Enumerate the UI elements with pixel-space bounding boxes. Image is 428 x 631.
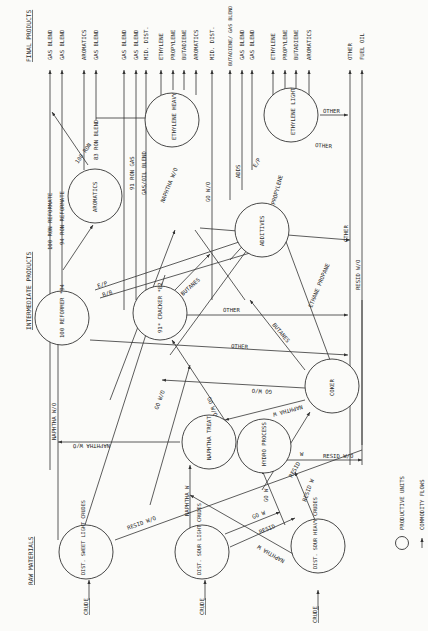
node-label: COKER [329, 379, 335, 396]
flow-label: RESID W/O [126, 515, 157, 531]
final-product-label: GAS BLEND [239, 29, 245, 60]
flow-label: 83 RON BLEND [93, 119, 99, 160]
final-product-label: GAS BLEND [93, 29, 99, 60]
flow-label: ADDS [235, 165, 241, 178]
node-label: ADDITIVES [259, 216, 265, 246]
flow-label: NAPHTHA W/O [159, 166, 179, 203]
final-product-label: BUTADIENE/ GAS BLEND [227, 6, 233, 66]
flow-label: PROPYLENE [270, 174, 284, 205]
flow-label: GAS/OIL BLEND [141, 151, 147, 195]
node-cracker[interactable]: 91* CRACKER *82 [133, 282, 187, 340]
node-label: HYDRO PROCESS [261, 422, 267, 466]
flow-label: GO W [263, 488, 269, 502]
flow-label: OTHER [223, 307, 240, 313]
node-aromatics[interactable]: AROMATICS [68, 169, 122, 223]
node-reformer[interactable]: 100 REFORMER *94 [35, 283, 89, 345]
node-label: AROMATICS [92, 182, 98, 212]
node-dist-sour-heavy[interactable]: DIST. SOUR HEAVY CRUDES [291, 497, 345, 573]
flow-label: NAPHTHA W [184, 485, 190, 516]
node-label: 100 REFORMER *94 [59, 283, 65, 338]
legend-productive-units: PRODUCTIVE UNITS [399, 476, 405, 530]
flow-label: E/P [252, 156, 263, 168]
flow-label: 94 RON REFORMATE [59, 190, 65, 245]
final-product-label: FUEL OIL [359, 32, 365, 60]
legend: PRODUCTIVE UNITS COMMODITY FLOWS [396, 476, 426, 549]
final-product-label: AROMATICS [81, 30, 87, 60]
node-ethylene-light[interactable]: ETHYLENE LIGHT [264, 87, 318, 142]
node-label: DIST. SWEET LIGHT CRUDES [80, 500, 86, 575]
node-label: ETHYLENE HEAVY [171, 92, 177, 140]
node-label: DIST. SOUR LIGHT CRUDES [196, 503, 202, 575]
final-product-label: GAS BLEND [249, 29, 255, 60]
final-product-label: GAS BLEND [121, 29, 127, 60]
flow-label: GO W/O [205, 181, 211, 202]
flow-label: OTHER [343, 225, 349, 242]
node-additives[interactable]: ADDITIVES [235, 203, 289, 257]
input-crude-label: CRUDE [83, 598, 89, 615]
flow-label: RESID [288, 460, 302, 478]
final-product-label: ETHYLENE [158, 32, 164, 60]
flow-label: GO W/O [251, 388, 272, 395]
node-dist-sweet-light[interactable]: DIST. SWEET LIGHT CRUDES [59, 500, 113, 579]
final-product-label: BUTADIENE [293, 29, 299, 60]
node-label: ETHYLENE LIGHT [290, 87, 296, 135]
flow-label: 100 RON REFORMATE [47, 192, 53, 250]
input-crude-label: CRUDE [312, 606, 318, 623]
flow-label: BUTANES [180, 277, 202, 297]
final-product-label: GAS BLEND [133, 29, 139, 60]
productive-unit-legend-icon [396, 537, 409, 550]
final-product-label: PROPYLENE [282, 29, 288, 60]
node-ethylene-heavy[interactable]: ETHYLENE HEAVY [145, 92, 199, 147]
final-product-label: GAS BLEND [47, 29, 53, 60]
final-product-label: BUTADIENE [181, 29, 187, 60]
flow-label: 100 RON [74, 142, 92, 165]
header-raw-materials: RAW MATERIALS [27, 536, 34, 585]
node-label: 91* CRACKER *82 [157, 282, 163, 333]
node-naphtha-treat[interactable]: NAPHTHA TREAT [182, 415, 236, 469]
flow-label: OTHER [323, 108, 340, 114]
final-product-label: MID. DIST. [143, 26, 149, 60]
flow-label: W [300, 451, 304, 457]
header-final-products: FINAL PRODUCTS [25, 10, 32, 62]
flow-label: BUTANES [271, 322, 291, 344]
final-product-labels: GAS BLEND GAS BLEND AROMATICS GAS BLEND … [47, 6, 365, 66]
flow-label: RESID W/O [355, 259, 361, 290]
flow-label: OTHER [231, 343, 249, 350]
input-crude-label: CRUDE [199, 598, 205, 615]
final-product-label: PROPYLENE [170, 29, 176, 60]
flow-label: NAPHTHA W/O [51, 402, 57, 440]
node-label: NAPHTHA TREAT [206, 416, 212, 460]
flow-label: ETHANE PROPANE [307, 262, 330, 309]
legend-commodity-flows: COMMODITY FLOWS [419, 479, 425, 530]
final-product-label: AROMATICS [306, 30, 312, 60]
node-coker[interactable]: COKER [305, 359, 359, 413]
final-product-label: AROMATICS [193, 30, 199, 60]
final-product-label: OTHER [347, 43, 353, 60]
final-product-label: MID. DIST. [209, 26, 215, 60]
flow-label: 91 RON GAS [129, 156, 135, 190]
flow-label: B/B [101, 289, 113, 298]
flow-label: NAPHTHA W/O [72, 443, 110, 449]
node-hydro-process[interactable]: HYDRO PROCESS [237, 419, 291, 473]
final-product-label: GAS BLEND [59, 29, 65, 60]
final-product-label: ETHYLENE [270, 32, 276, 60]
flow-label: OTHER [315, 142, 333, 149]
header-intermediate-products: INTERMEDIATE PRODUCTS [25, 251, 32, 330]
flow-label: RESID [258, 523, 276, 535]
flow-label: GO W/O [153, 389, 166, 411]
flow-label: RESID W/O [323, 453, 354, 459]
node-label: DIST. SOUR HEAVY CRUDES [312, 497, 318, 569]
flow-label: NAPHTHA W [272, 404, 303, 418]
